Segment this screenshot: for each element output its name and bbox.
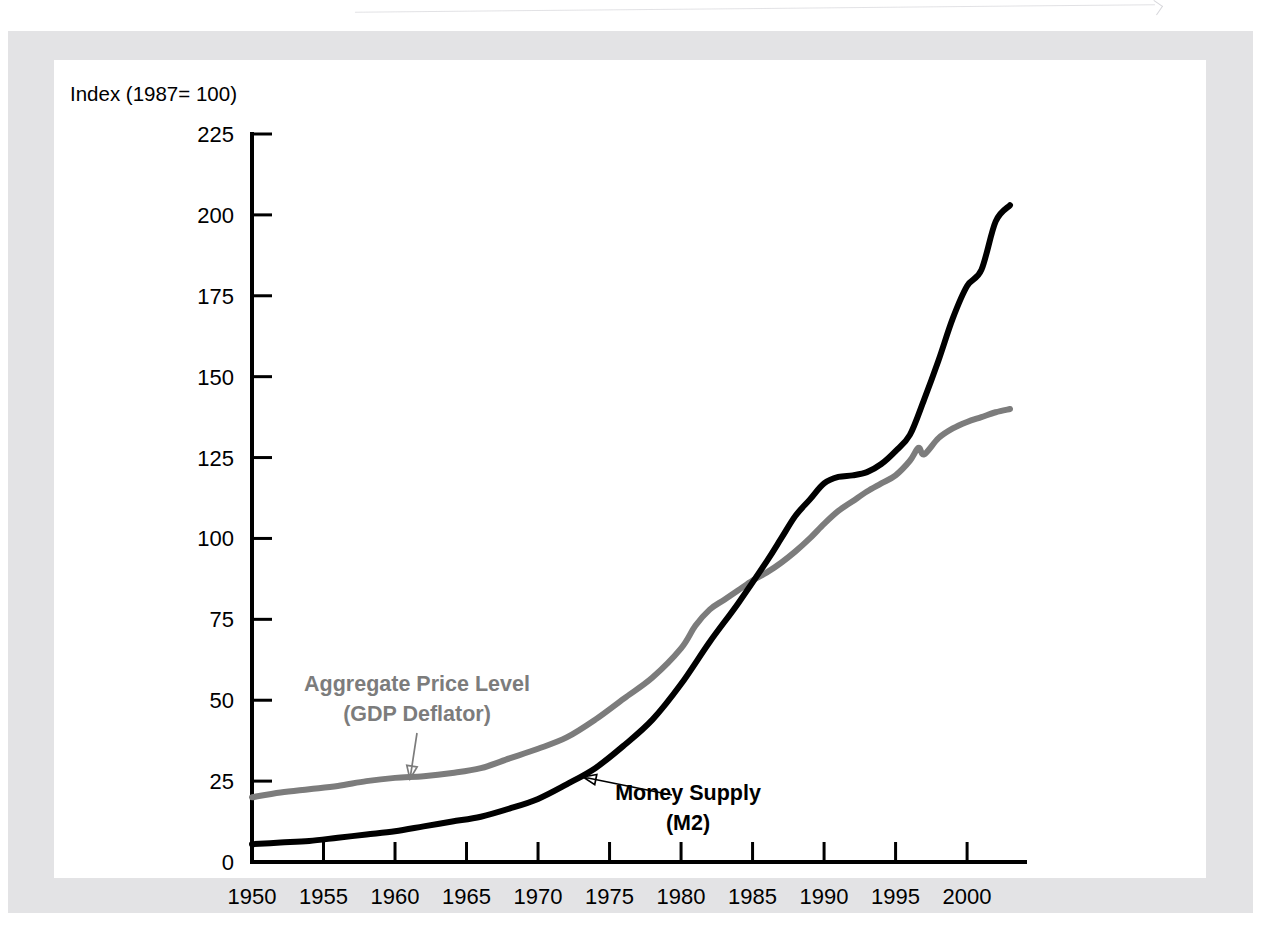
y-tick-label-25: 25 [210,769,234,794]
data-series-group [252,205,1010,844]
x-tick-label-1990: 1990 [800,884,849,909]
y-axis-ticks [252,134,272,862]
x-tick-label-1985: 1985 [728,884,777,909]
y-tick-label-50: 50 [210,688,234,713]
y-tick-label-75: 75 [210,607,234,632]
series-line-money-supply-m2 [252,205,1010,844]
black-series-label-line1: Money Supply [615,781,761,805]
black-series-label-line2: (M2) [666,811,710,835]
x-tick-label-1980: 1980 [657,884,706,909]
gray-series-label-line1: Aggregate Price Level [304,672,530,696]
y-axis-title: Index (1987= 100) [70,82,237,105]
y-tick-label-125: 125 [197,446,234,471]
x-tick-label-1995: 1995 [871,884,920,909]
x-tick-label-1950: 1950 [228,884,277,909]
line-chart: Index (1987= 100) 0255075100125150175200… [0,0,1269,948]
annotation-money-supply: Money Supply (M2) [583,774,761,835]
gray-label-arrow-icon [407,733,417,779]
x-axis-ticks [252,842,967,862]
x-tick-label-1960: 1960 [371,884,420,909]
y-tick-label-175: 175 [197,284,234,309]
y-tick-label-0: 0 [222,850,234,875]
y-tick-label-150: 150 [197,365,234,390]
x-axis-tick-labels: 1950195519601965197019751980198519901995… [228,884,992,909]
y-axis-tick-labels: 0255075100125150175200225 [197,122,234,875]
x-tick-label-1955: 1955 [299,884,348,909]
y-tick-label-200: 200 [197,203,234,228]
figure-page: Index (1987= 100) 0255075100125150175200… [0,0,1269,948]
x-tick-label-2000: 2000 [943,884,992,909]
y-tick-label-100: 100 [197,526,234,551]
x-tick-label-1970: 1970 [514,884,563,909]
x-tick-label-1975: 1975 [585,884,634,909]
y-tick-label-225: 225 [197,122,234,147]
gray-series-label-line2: (GDP Deflator) [343,702,491,726]
x-tick-label-1965: 1965 [442,884,491,909]
